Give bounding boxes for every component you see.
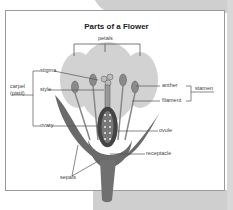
label-ovary: ovary: [40, 123, 53, 129]
label-stigma: stigma: [40, 68, 56, 74]
label-filament: filament: [162, 98, 181, 104]
label-sepals: sepals: [60, 175, 76, 181]
label-ovule: ovule: [159, 128, 172, 134]
label-receptacle: receptacle: [146, 151, 171, 157]
stem-shape: [100, 160, 116, 202]
label-petals: petals: [98, 36, 113, 42]
label-anther: anther: [162, 83, 178, 89]
flower-diagram: [0, 0, 233, 210]
label-style: style: [40, 87, 51, 93]
diagram-title: Parts of a Flower: [0, 22, 233, 31]
label-stamen: stamen: [195, 86, 213, 92]
label-pistil: (pistil): [10, 91, 25, 97]
label-carpel: carpel: [10, 84, 25, 90]
